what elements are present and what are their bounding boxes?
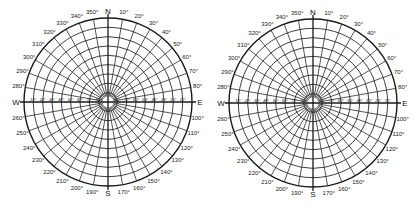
azimuth-line xyxy=(249,49,309,99)
azimuth-line xyxy=(317,39,367,99)
altitude-label: 10° xyxy=(235,98,241,103)
azimuth-label: 120° xyxy=(386,146,399,152)
azimuth-line xyxy=(259,39,309,99)
azimuth-label: 220° xyxy=(248,170,261,176)
azimuth-label: 290° xyxy=(221,69,234,75)
azimuth-label: 340° xyxy=(276,14,289,20)
azimuth-label: 10° xyxy=(324,10,334,16)
azimuth-label: 70° xyxy=(394,69,404,75)
altitude-label: 30° xyxy=(366,98,372,103)
azimuth-label: 320° xyxy=(248,30,261,36)
altitude-label: 60° xyxy=(282,98,288,103)
azimuth-label: 20° xyxy=(340,14,350,20)
azimuth-label: 190° xyxy=(291,190,304,196)
azimuth-label: 210° xyxy=(261,179,274,185)
azimuth-label: 110° xyxy=(393,131,406,137)
azimuth-label: 100° xyxy=(396,116,409,122)
azimuth-label: 50° xyxy=(378,42,388,48)
azimuth-line xyxy=(317,107,377,157)
altitude-label: 80° xyxy=(301,98,307,103)
azimuth-label: 40° xyxy=(367,30,377,36)
altitude-label: 50° xyxy=(273,98,279,103)
azimuth-label: 60° xyxy=(387,55,397,61)
altitude-label: 40° xyxy=(263,98,269,103)
azimuth-label: 280° xyxy=(217,84,230,90)
altitude-label: 70° xyxy=(291,98,297,103)
azimuth-label: 150° xyxy=(352,179,365,185)
azimuth-label: 200° xyxy=(276,186,289,192)
sun-path-diagrams: 10°20°30°40°50°60°70°80°100°110°120°130°… xyxy=(0,0,418,209)
cardinal-label-s: S xyxy=(310,190,315,199)
azimuth-label: 310° xyxy=(237,42,250,48)
azimuth-label: 300° xyxy=(228,55,241,61)
azimuth-line xyxy=(317,107,367,167)
azimuth-label: 160° xyxy=(338,186,351,192)
azimuth-label: 80° xyxy=(398,84,408,90)
cardinal-label-e: E xyxy=(402,99,407,108)
azimuth-label: 230° xyxy=(237,158,250,164)
altitude-label: 70° xyxy=(329,98,335,103)
azimuth-label: 170° xyxy=(323,190,336,196)
azimuth-label: 260° xyxy=(217,116,230,122)
azimuth-label: 330° xyxy=(261,21,274,27)
sun-path-diagram-right: 10°20°30°40°50°60°70°80°100°110°120°130°… xyxy=(0,0,418,209)
altitude-label: 30° xyxy=(254,98,260,103)
altitude-label: 40° xyxy=(357,98,363,103)
azimuth-label: 30° xyxy=(354,21,364,27)
azimuth-label: 250° xyxy=(221,131,234,137)
altitude-label: 80° xyxy=(319,98,325,103)
cardinal-label-w: W xyxy=(217,99,225,108)
altitude-label: 20° xyxy=(374,98,381,103)
azimuth-label: 130° xyxy=(376,158,389,164)
azimuth-line xyxy=(249,107,309,157)
altitude-label: 60° xyxy=(338,98,344,103)
altitude-label: 10° xyxy=(385,98,391,103)
altitude-label: 20° xyxy=(244,98,251,103)
azimuth-line xyxy=(259,107,309,167)
azimuth-line xyxy=(317,49,377,99)
azimuth-label: 350° xyxy=(291,10,304,16)
azimuth-label: 240° xyxy=(228,146,241,152)
cardinal-label-n: N xyxy=(310,8,316,17)
azimuth-label: 140° xyxy=(365,170,378,176)
altitude-label: 50° xyxy=(347,98,353,103)
